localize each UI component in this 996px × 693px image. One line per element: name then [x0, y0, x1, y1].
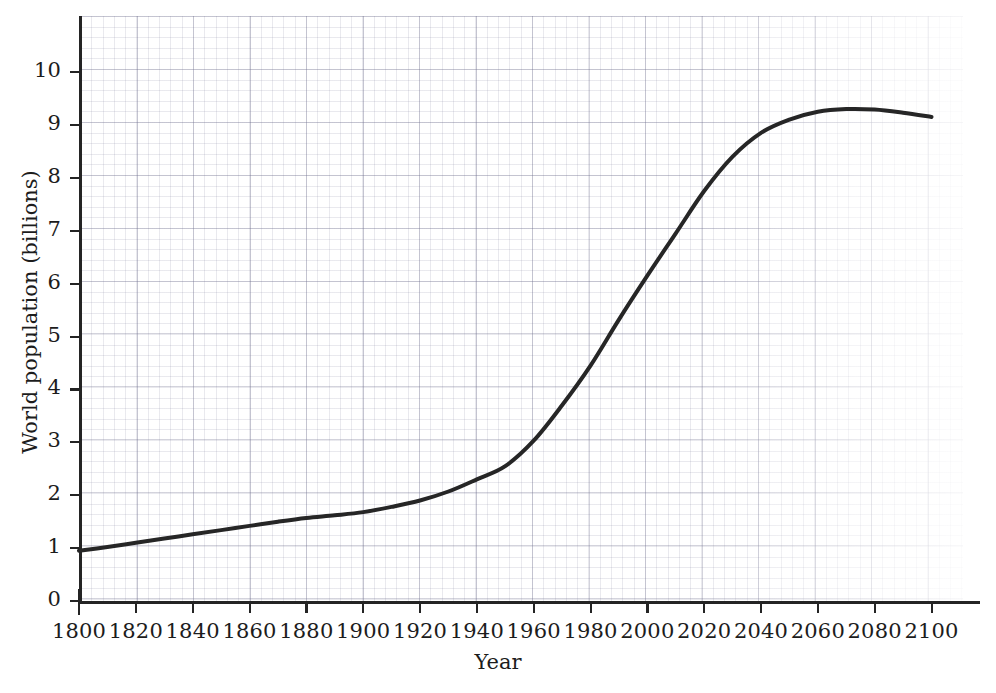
population-chart-figure: 012345678910 180018201840186018801900192…	[0, 0, 996, 693]
x-axis-title: Year	[0, 650, 996, 674]
population-curve-layer	[0, 0, 996, 693]
y-axis-title: World population (billions)	[18, 77, 42, 547]
population-curve-path	[79, 109, 932, 551]
